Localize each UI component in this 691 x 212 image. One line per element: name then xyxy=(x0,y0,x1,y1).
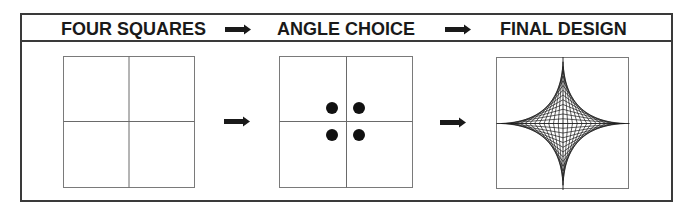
dot-marker xyxy=(326,102,338,114)
angle-choice-panel xyxy=(280,57,413,188)
dot-marker xyxy=(326,129,338,141)
diagram-canvas xyxy=(0,0,691,212)
final-design-panel xyxy=(497,57,630,190)
right-arrow-icon xyxy=(224,117,250,127)
right-arrow-icon xyxy=(225,25,251,35)
right-arrow-icon xyxy=(440,118,466,128)
string-art-astroid xyxy=(497,57,630,190)
four-squares-panel xyxy=(64,57,195,188)
dot-marker xyxy=(353,102,365,114)
right-arrow-icon xyxy=(445,25,471,35)
dot-marker xyxy=(353,129,365,141)
